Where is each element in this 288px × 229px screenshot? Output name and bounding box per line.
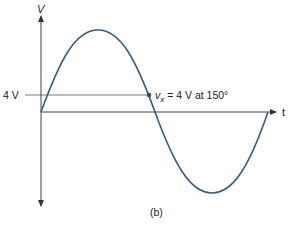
sine-wave-diagram: V t 4 V vx = 4 V at 150° (b) [0,0,288,229]
x-axis-label: t [282,106,285,118]
figure-caption: (b) [150,206,163,218]
y-axis-label: V [37,3,46,15]
reference-label: 4 V [3,89,19,101]
annotation-label: vx = 4 V at 150° [155,89,228,104]
point-marker [147,93,152,98]
